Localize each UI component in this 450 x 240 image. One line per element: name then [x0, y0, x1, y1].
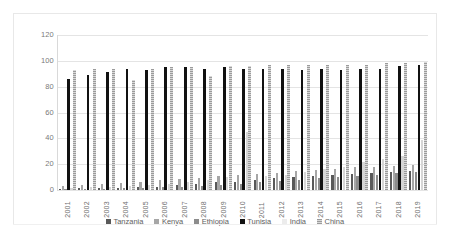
- bar-group: [253, 35, 272, 190]
- bar: [170, 67, 173, 190]
- y-tick-label: 40: [24, 134, 54, 142]
- bar-group: [370, 35, 389, 190]
- bar-group: [331, 35, 350, 190]
- x-tick-label: 2011: [258, 202, 265, 218]
- bar-group: [292, 35, 311, 190]
- bar: [385, 63, 388, 190]
- bar: [326, 65, 329, 190]
- bar: [287, 65, 290, 190]
- y-tick-label: 80: [24, 83, 54, 91]
- x-tick-label: 2019: [414, 201, 421, 218]
- y-tick-label: 120: [24, 31, 54, 39]
- x-tick-label: 2013: [297, 201, 304, 218]
- x-tick-label: 2006: [161, 201, 168, 218]
- plot-area: [58, 35, 428, 190]
- x-tick-label: 2012: [278, 201, 285, 218]
- bar-group: [194, 35, 213, 190]
- y-tick-label: 0: [24, 186, 54, 194]
- x-tick-label: 2010: [239, 201, 246, 218]
- screenshot-root: 020406080100120 200120022003200420052006…: [0, 0, 450, 240]
- bar-group: [175, 35, 194, 190]
- bar: [223, 67, 226, 190]
- bar-group: [136, 35, 155, 190]
- x-tick-label: 2004: [122, 201, 129, 218]
- x-tick-label: 2005: [142, 201, 149, 218]
- bar-group: [155, 35, 174, 190]
- bar-group: [233, 35, 252, 190]
- bar-group: [350, 35, 369, 190]
- x-tick-label: 2007: [181, 201, 188, 218]
- bar-group: [58, 35, 77, 190]
- y-axis-labels: 020406080100120: [20, 14, 54, 214]
- bar-group: [116, 35, 135, 190]
- bar: [151, 69, 154, 190]
- bar-group: [77, 35, 96, 190]
- bar: [346, 65, 349, 190]
- bar: [67, 79, 70, 190]
- y-tick-label: 100: [24, 57, 54, 65]
- bar: [126, 69, 129, 190]
- bottom-divider: [13, 224, 437, 225]
- bar: [145, 70, 148, 190]
- x-tick-label: 2015: [336, 201, 343, 218]
- bar: [184, 67, 187, 190]
- bar: [73, 70, 76, 190]
- x-tick-label: 2009: [220, 201, 227, 218]
- y-tick-label: 60: [24, 109, 54, 117]
- bar: [268, 65, 271, 190]
- bar: [307, 65, 310, 190]
- bar: [229, 66, 232, 190]
- bar: [164, 67, 167, 190]
- x-tick-label: 2001: [64, 201, 71, 218]
- bar: [87, 75, 90, 190]
- bar: [112, 69, 115, 190]
- bar: [365, 65, 368, 190]
- bar: [262, 69, 265, 190]
- bar-group: [409, 35, 428, 190]
- bar: [203, 69, 206, 190]
- gridline: [58, 190, 428, 191]
- x-tick-label: 2008: [200, 201, 207, 218]
- bar-group: [311, 35, 330, 190]
- bar: [404, 63, 407, 190]
- x-tick-label: 2016: [356, 201, 363, 218]
- bar-group: [214, 35, 233, 190]
- chart-container: 020406080100120 200120022003200420052006…: [13, 13, 437, 225]
- y-tick-label: 20: [24, 160, 54, 168]
- bar-group: [272, 35, 291, 190]
- x-tick-label: 2014: [317, 201, 324, 218]
- x-tick-label: 2018: [395, 201, 402, 218]
- bar: [93, 69, 96, 190]
- bar-group: [389, 35, 408, 190]
- bar: [106, 72, 109, 190]
- bar: [209, 76, 212, 190]
- bar: [248, 66, 251, 190]
- x-axis-labels: 2001200220032004200520062007200820092010…: [58, 192, 428, 218]
- x-tick-label: 2017: [375, 201, 382, 218]
- x-tick-label: 2002: [83, 201, 90, 218]
- bar-group: [97, 35, 116, 190]
- bar: [132, 80, 135, 190]
- x-tick-label: 2003: [103, 201, 110, 218]
- bar: [424, 62, 427, 190]
- bar: [281, 69, 284, 190]
- bar: [190, 67, 193, 190]
